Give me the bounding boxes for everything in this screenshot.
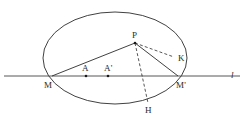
- point-label-P: P: [132, 31, 137, 40]
- point-label-A: A: [82, 64, 89, 73]
- point-dot-P: [134, 42, 137, 45]
- point-label-H: H: [145, 106, 152, 115]
- point-label-M: M: [44, 81, 52, 90]
- geometry-figure: M A A' P K M' H l: [0, 0, 250, 120]
- point-label-M-prime: M': [176, 81, 186, 90]
- main-ellipse: [43, 12, 187, 104]
- line-label-l: l: [231, 71, 234, 80]
- point-dot-A-prime: [107, 75, 110, 78]
- point-label-A-prime: A': [104, 64, 113, 73]
- geometry-canvas: [0, 0, 250, 120]
- point-label-K: K: [178, 54, 185, 63]
- segment-M-P: [52, 43, 135, 76]
- point-dot-A: [85, 75, 88, 78]
- segment-P-K: [135, 43, 174, 57]
